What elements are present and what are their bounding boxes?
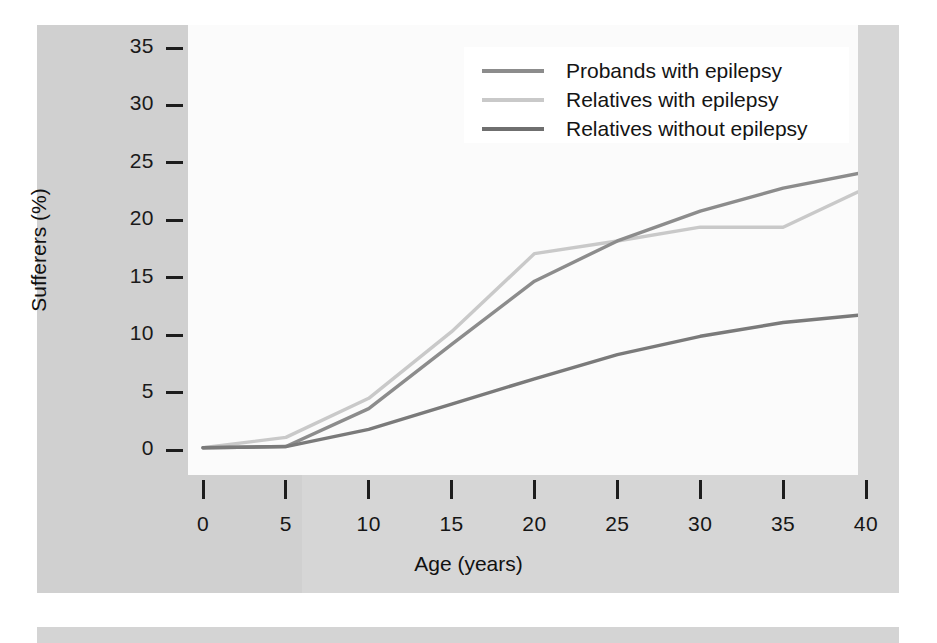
y-axis-tick-mark xyxy=(166,391,183,394)
x-axis-tick-mark xyxy=(202,480,205,499)
chart-legend: Probands with epilepsyRelatives with epi… xyxy=(464,47,849,143)
legend-line-swatch xyxy=(482,98,544,102)
x-axis-tick-mark xyxy=(782,480,785,499)
legend-line-swatch xyxy=(482,69,544,73)
y-axis-tick-label: 5 xyxy=(108,379,154,403)
x-axis-tick-label: 30 xyxy=(670,512,730,536)
y-axis-tick-mark xyxy=(166,276,183,279)
legend-item-label: Relatives without epilepsy xyxy=(566,117,808,141)
series-line xyxy=(203,188,858,448)
x-axis-tick-label: 0 xyxy=(173,512,233,536)
x-axis-tick-label: 25 xyxy=(587,512,647,536)
y-axis-tick-label: 10 xyxy=(108,321,154,345)
y-axis-tick-label: 35 xyxy=(108,34,154,58)
legend-item-label: Relatives with epilepsy xyxy=(566,88,778,112)
legend-line-swatch xyxy=(482,127,544,131)
x-axis-tick-label: 40 xyxy=(836,512,896,536)
x-axis-tick-mark xyxy=(450,480,453,499)
legend-item: Relatives without epilepsy xyxy=(482,114,808,144)
x-axis-tick-mark xyxy=(533,480,536,499)
x-axis-tick-mark xyxy=(699,480,702,499)
x-axis-tick-label: 35 xyxy=(753,512,813,536)
series-line xyxy=(203,314,858,447)
series-layer xyxy=(203,172,858,448)
y-axis-tick-label: 0 xyxy=(108,436,154,460)
y-axis-tick-label: 30 xyxy=(108,91,154,115)
x-axis-tick-mark xyxy=(865,480,868,499)
x-axis-tick-label: 20 xyxy=(505,512,565,536)
x-axis-title: Age (years) xyxy=(0,552,937,576)
series-line xyxy=(203,172,858,448)
legend-item: Relatives with epilepsy xyxy=(482,85,778,115)
y-axis-tick-label: 20 xyxy=(108,206,154,230)
x-axis-tick-mark xyxy=(616,480,619,499)
y-axis-tick-label: 15 xyxy=(108,264,154,288)
y-axis-tick-mark xyxy=(166,334,183,337)
figure-bottom-strip xyxy=(37,627,899,643)
legend-item-label: Probands with epilepsy xyxy=(566,59,782,83)
x-axis-tick-label: 10 xyxy=(339,512,399,536)
legend-item: Probands with epilepsy xyxy=(482,56,782,86)
y-axis-tick-mark xyxy=(166,449,183,452)
y-axis-tick-label: 25 xyxy=(108,149,154,173)
x-axis-tick-mark xyxy=(284,480,287,499)
y-axis-tick-mark xyxy=(166,47,183,50)
x-axis-tick-label: 5 xyxy=(256,512,316,536)
x-axis-tick-label: 15 xyxy=(422,512,482,536)
y-axis-title: Sufferers (%) xyxy=(27,165,51,335)
x-axis-tick-mark xyxy=(367,480,370,499)
y-axis-tick-mark xyxy=(166,104,183,107)
y-axis-tick-mark xyxy=(166,161,183,164)
y-axis-tick-mark xyxy=(166,219,183,222)
figure-root: Sufferers (%) 05101520253035 05101520253… xyxy=(0,0,937,643)
